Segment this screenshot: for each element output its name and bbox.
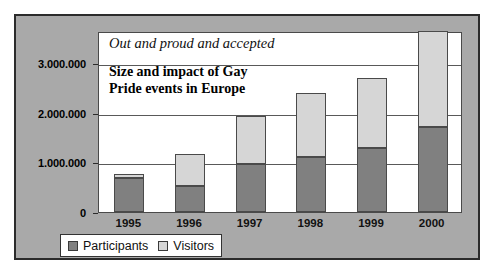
bar-segment-visitors-1997 bbox=[236, 116, 266, 163]
x-axis-tick-label-1997: 1997 bbox=[220, 217, 280, 229]
y-axis-tick-label: 1.000.000 bbox=[12, 157, 86, 169]
participants-swatch bbox=[68, 241, 78, 251]
visitors-swatch bbox=[158, 241, 168, 251]
bar-segment-visitors-2000 bbox=[418, 31, 448, 127]
bar-segment-visitors-1996 bbox=[175, 154, 205, 186]
y-axis-tick-label: 3.000.000 bbox=[12, 58, 86, 70]
y-axis-tick-label: 2.000.000 bbox=[12, 108, 86, 120]
plot-area: Out and proud and accepted Size and impa… bbox=[98, 32, 462, 213]
bar-segment-visitors-1995 bbox=[114, 174, 144, 178]
bar-segment-participants-1996 bbox=[175, 186, 205, 212]
bar-segment-participants-1997 bbox=[236, 164, 266, 212]
chart-title: Size and impact of Gay Pride events in E… bbox=[109, 63, 247, 97]
bar-group-1997 bbox=[236, 31, 266, 212]
chart-legend: ParticipantsVisitors bbox=[60, 234, 222, 257]
x-axis-tick-label-1998: 1998 bbox=[280, 217, 340, 229]
bar-group-1996 bbox=[175, 31, 205, 212]
bar-segment-visitors-1999 bbox=[357, 78, 387, 147]
x-axis-tick-label-1996: 1996 bbox=[159, 217, 219, 229]
chart-subtitle: Out and proud and accepted bbox=[109, 35, 274, 52]
bar-segment-participants-2000 bbox=[418, 127, 448, 212]
x-axis-tick-label-1995: 1995 bbox=[98, 217, 158, 229]
legend-item-participants: Participants bbox=[68, 239, 148, 253]
chart-panel: 01.000.0002.000.0003.000.000 Out and pro… bbox=[14, 14, 480, 260]
x-axis-tick-label-1999: 1999 bbox=[341, 217, 401, 229]
bar-segment-participants-1998 bbox=[296, 157, 326, 212]
legend-label: Visitors bbox=[173, 239, 214, 253]
chart-title-line-2: Pride events in Europe bbox=[109, 80, 247, 97]
legend-label: Participants bbox=[83, 239, 148, 253]
bar-group-1998 bbox=[296, 31, 326, 212]
bar-group-2000 bbox=[418, 31, 448, 212]
legend-item-visitors: Visitors bbox=[158, 239, 214, 253]
bar-segment-participants-1999 bbox=[357, 148, 387, 212]
y-axis-tick-label: 0 bbox=[12, 207, 86, 219]
y-axis-tick-mark bbox=[93, 213, 98, 214]
bar-segment-visitors-1998 bbox=[296, 93, 326, 157]
bar-segment-participants-1995 bbox=[114, 178, 144, 212]
x-axis-tick-label-2000: 2000 bbox=[402, 217, 462, 229]
bar-group-1995 bbox=[114, 31, 144, 212]
gridline-1.000.000 bbox=[99, 164, 461, 165]
chart-title-line-1: Size and impact of Gay bbox=[109, 63, 247, 80]
gridline-2.000.000 bbox=[99, 115, 461, 116]
bar-group-1999 bbox=[357, 31, 387, 212]
